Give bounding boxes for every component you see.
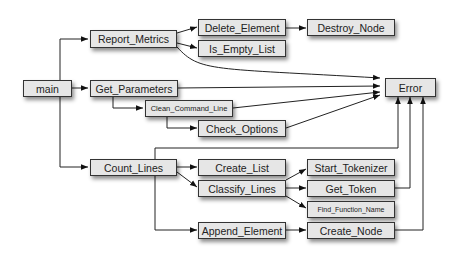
node-create-node-label: Create_Node [320, 225, 382, 237]
edge-clean-command-line-check-options [167, 117, 197, 128]
edge-count-lines-append-element [155, 176, 197, 230]
edge-get-parameters-clean-command-line [113, 97, 143, 108]
node-clean-command-line-label: Clean_Command_Line [151, 104, 228, 113]
node-is-empty-list: Is_Empty_List [198, 40, 286, 57]
edge-count-lines-classify-lines [177, 172, 197, 187]
node-get-parameters: Get_Parameters [90, 80, 178, 97]
node-main-label: main [36, 83, 59, 95]
node-append-element: Append_Element [198, 222, 286, 239]
node-check-options: Check_Options [198, 120, 286, 137]
node-append-element-label: Append_Element [202, 225, 283, 237]
node-get-token: Get_Token [307, 180, 395, 197]
node-create-list-label: Create_List [215, 162, 269, 174]
edge-classify-lines-start-tokenizer [286, 169, 306, 180]
node-classify-lines-label: Classify_Lines [208, 183, 276, 195]
node-create-node: Create_Node [307, 222, 395, 239]
node-main: main [23, 80, 72, 97]
edge-report-metrics-delete-element [177, 27, 197, 33]
edge-create-node-error [395, 97, 423, 230]
edge-check-options-error [286, 95, 380, 128]
node-start-tokenizer-label: Start_Tokenizer [315, 162, 388, 174]
node-delete-element: Delete_Element [198, 19, 286, 36]
node-find-function-name: Find_Function_Name [307, 201, 395, 218]
edge-main-count-lines [60, 97, 88, 167]
node-create-list: Create_List [198, 159, 286, 176]
edge-report-metrics-is-empty-list [177, 43, 197, 48]
node-is-empty-list-label: Is_Empty_List [209, 43, 275, 55]
node-error-label: Error [399, 82, 422, 94]
node-get-token-label: Get_Token [326, 183, 377, 195]
node-delete-element-label: Delete_Element [205, 22, 280, 34]
edge-clean-command-line-error [233, 92, 380, 108]
node-count-lines: Count_Lines [90, 159, 177, 176]
node-classify-lines: Classify_Lines [198, 180, 286, 197]
node-count-lines-label: Count_Lines [104, 162, 163, 174]
node-report-metrics-label: Report_Metrics [98, 33, 169, 45]
edge-classify-lines-find-function-name [286, 196, 306, 208]
node-get-parameters-label: Get_Parameters [95, 83, 172, 95]
edge-main-report-metrics [60, 39, 88, 80]
node-destroy-node-label: Destroy_Node [317, 22, 384, 34]
node-report-metrics: Report_Metrics [90, 30, 177, 48]
node-find-function-name-label: Find_Function_Name [318, 206, 385, 213]
node-clean-command-line: Clean_Command_Line [145, 100, 233, 117]
node-error: Error [385, 78, 436, 97]
node-destroy-node: Destroy_Node [307, 19, 395, 36]
node-start-tokenizer: Start_Tokenizer [307, 159, 395, 176]
edge-get-parameters-error [178, 86, 380, 88]
node-check-options-label: Check_Options [206, 123, 278, 135]
edge-get-token-error [395, 97, 410, 188]
